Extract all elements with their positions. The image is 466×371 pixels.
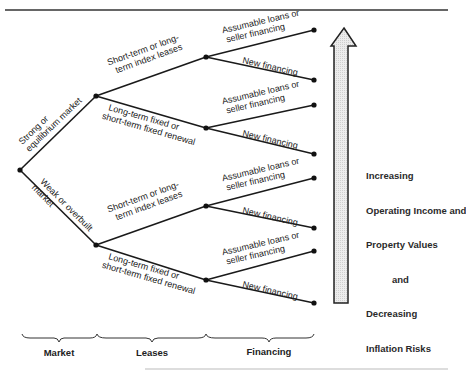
lease-node xyxy=(203,125,208,130)
svg-text:New financing: New financing xyxy=(242,55,299,77)
financing-label: Assumable loans or seller financing xyxy=(221,230,303,267)
financing-label: Assumable loans or seller financing xyxy=(221,156,303,193)
leaf-node xyxy=(311,175,316,180)
leaf-node xyxy=(311,151,316,156)
market-label-strong: Strong or equilibrium market xyxy=(17,88,84,154)
financing-label: New financing xyxy=(242,205,299,227)
category-label-financing: Financing xyxy=(247,346,292,357)
caption-line: Operating Income and xyxy=(366,205,466,217)
leaf-node xyxy=(311,248,316,253)
financing-label: New financing xyxy=(242,279,299,301)
category-label-market: Market xyxy=(44,347,75,358)
up-arrow-icon xyxy=(331,28,356,303)
market-node-weak xyxy=(93,242,98,247)
leaf-node xyxy=(311,300,316,305)
caption-line: and xyxy=(366,274,466,286)
caption-line: Increasing xyxy=(366,170,466,182)
financing-label: New financing xyxy=(242,128,299,150)
category-braces xyxy=(22,334,314,342)
caption-line: Inflation Risks xyxy=(366,343,466,355)
market-node-strong xyxy=(93,93,98,98)
leaf-node xyxy=(311,27,316,32)
lease-label: Long-term fixed or short-term fixed rene… xyxy=(101,101,199,147)
svg-text:New financing: New financing xyxy=(242,128,299,150)
leaf-node xyxy=(311,102,316,107)
caption-line: Property Values xyxy=(366,239,466,251)
svg-text:New financing: New financing xyxy=(242,205,299,227)
root-node xyxy=(17,167,22,172)
leaf-node xyxy=(311,225,316,230)
svg-text:New financing: New financing xyxy=(242,279,299,301)
caption-line: Decreasing xyxy=(366,308,466,320)
lease-node xyxy=(203,277,208,282)
leaf-node xyxy=(311,77,316,82)
category-label-leases: Leases xyxy=(136,347,168,358)
financing-label: New financing xyxy=(242,55,299,77)
lease-node xyxy=(203,203,208,208)
lease-label: Short-term or long- term index leases xyxy=(106,32,184,77)
market-label-weak: Weak or overbuilt market xyxy=(30,175,95,240)
lease-node xyxy=(203,54,208,59)
arrow-caption: Increasing Operating Income and Property… xyxy=(366,147,466,366)
financing-label: Assumable loans or seller financing xyxy=(221,8,303,45)
